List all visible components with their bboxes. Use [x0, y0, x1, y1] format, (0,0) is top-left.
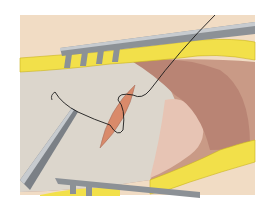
surgical-illustration: [0, 0, 271, 210]
